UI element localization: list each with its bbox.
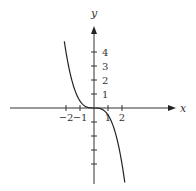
- function-graph: −2−1121234 x y: [0, 0, 196, 191]
- y-axis-label: y: [90, 7, 98, 20]
- x-tick-label: −2: [59, 112, 74, 123]
- y-tick-label: 2: [102, 75, 108, 86]
- y-tick-label: 4: [102, 47, 108, 58]
- x-axis-label: x: [180, 102, 187, 115]
- x-tick-label: 1: [105, 112, 111, 123]
- axes: [10, 26, 176, 184]
- x-tick-label: 2: [119, 112, 125, 123]
- y-tick-label: 3: [102, 61, 108, 72]
- x-axis-arrow-icon: [168, 105, 176, 111]
- y-tick-label: 1: [102, 89, 108, 100]
- y-axis-arrow-icon: [91, 26, 97, 34]
- x-tick-label: −1: [73, 112, 88, 123]
